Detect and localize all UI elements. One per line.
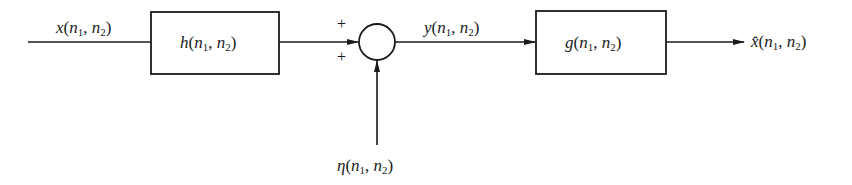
noise-signal-label: η(n1, n2) — [337, 157, 393, 176]
intermediate-signal-label: y(n1, n2) — [424, 19, 479, 38]
plus-sign-bottom: + — [337, 49, 346, 65]
h-block-label: h(n1, n2) — [180, 34, 236, 53]
input-signal-label: x(n1, n2) — [56, 19, 111, 38]
summing-junction — [359, 24, 395, 60]
output-signal-label: x̂(n1, n2) — [751, 33, 806, 52]
g-block-label: g(n1, n2) — [565, 34, 621, 53]
plus-sign-top: + — [337, 16, 346, 32]
